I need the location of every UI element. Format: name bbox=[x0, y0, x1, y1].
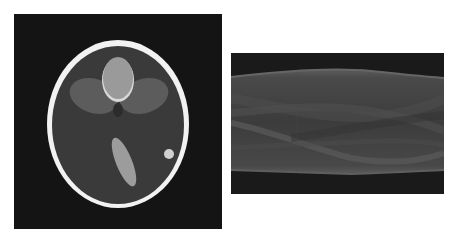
top-ellipse bbox=[103, 57, 133, 99]
sinogram-svg bbox=[231, 53, 444, 194]
phantom-svg bbox=[14, 14, 222, 229]
small-dot bbox=[164, 149, 174, 159]
shepp-logan-phantom-image bbox=[14, 14, 222, 229]
center-gap bbox=[113, 103, 123, 117]
sinogram-image bbox=[231, 53, 444, 194]
